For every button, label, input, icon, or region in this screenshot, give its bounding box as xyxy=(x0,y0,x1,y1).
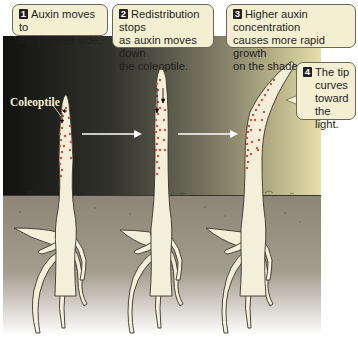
step-1-text-line-2: the shaded side. xyxy=(19,34,102,47)
step-3-number-badge: 3 xyxy=(233,9,242,19)
step-4-text-line-2: curves xyxy=(303,79,350,92)
step-1-text-line-1: Auxin moves to xyxy=(19,8,95,33)
step-4-text-line-3: toward xyxy=(303,92,350,105)
step-2-callout: 2Redistribution stops as auxin moves dow… xyxy=(112,4,214,48)
step-1-callout: 1Auxin moves to the shaded side. xyxy=(12,4,108,36)
step-4-number-badge: 4 xyxy=(303,67,312,77)
step-3-text-line-2: causes more rapid growth xyxy=(233,34,350,60)
step-4-text-line-4: the light. xyxy=(303,105,350,131)
step-2-text-line-3: the coleoptile. xyxy=(119,60,208,73)
step-1-number-badge: 1 xyxy=(19,9,28,19)
step-2-number-badge: 2 xyxy=(119,9,128,19)
step-2-text-line-1: Redistribution stops xyxy=(119,8,199,33)
step-3-callout: 3Higher auxin concentration causes more … xyxy=(226,4,356,48)
step-4-text-line-1: The tip xyxy=(315,66,349,78)
step-3-text-line-1: Higher auxin concentration xyxy=(233,8,308,33)
step-2-text-line-2: as auxin moves down xyxy=(119,34,208,60)
step-4-callout: 4The tip curves toward the light. xyxy=(296,62,356,120)
coleoptile-label: Coleoptile xyxy=(10,96,60,108)
